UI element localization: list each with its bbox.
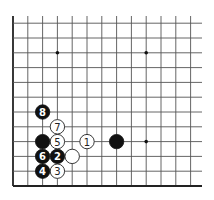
star-point [144, 140, 148, 144]
black-stone [35, 134, 49, 148]
move-number: 6 [39, 151, 46, 162]
white-stone-5: 5 [50, 134, 64, 148]
move-number: 7 [54, 122, 60, 133]
black-stone-2: 2 [50, 149, 64, 163]
stones-layer: 12345678 [35, 105, 123, 179]
move-number: 1 [84, 137, 90, 148]
move-number: 4 [39, 166, 46, 177]
go-board-diagram: 12345678 [0, 0, 214, 200]
move-number: 2 [54, 151, 61, 162]
stone-circle [65, 149, 79, 163]
black-stone-8: 8 [35, 105, 49, 119]
white-stone [65, 149, 79, 163]
black-stone-6: 6 [35, 149, 49, 163]
move-number: 3 [54, 166, 60, 177]
black-stone-4: 4 [35, 164, 49, 178]
move-number: 8 [39, 107, 46, 118]
star-point [56, 51, 60, 55]
black-stone [109, 134, 123, 148]
white-stone-1: 1 [80, 134, 94, 148]
star-point [144, 51, 148, 55]
move-number: 5 [54, 137, 60, 148]
white-stone-7: 7 [50, 120, 64, 134]
white-stone-3: 3 [50, 164, 64, 178]
stone-circle [35, 134, 49, 148]
stone-circle [109, 134, 123, 148]
